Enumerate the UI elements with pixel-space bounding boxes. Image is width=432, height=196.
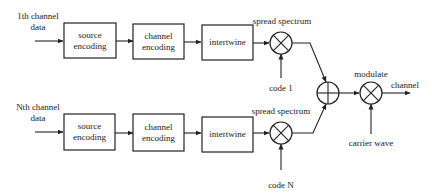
branch-n-spread-spectrum-label: spread spectrum: [252, 106, 311, 116]
branch-1: 1th channel data source encoding channel…: [17, 11, 326, 93]
channel-output-label: channel: [391, 80, 419, 90]
branch-n-channel-label-line2: encoding: [142, 133, 175, 143]
branch-n-intertwine-label: intertwine: [209, 129, 246, 139]
modulate-label: modulate: [354, 69, 388, 79]
branch-1-spread-spectrum-label: spread spectrum: [253, 16, 312, 26]
branch-1-channel-label-line1: channel: [145, 31, 173, 41]
adder-icon: [317, 82, 339, 104]
branch-1-code-label: code 1: [269, 83, 293, 93]
branch-1-to-adder-line: [292, 43, 326, 82]
branch-1-source-label-line1: source: [78, 30, 102, 40]
branch-1-source-label-line2: encoding: [74, 41, 107, 51]
branch-n-input-label-line2: data: [31, 113, 46, 123]
branch-n-input-label-line1: Nth channel: [16, 102, 60, 112]
block-diagram: 1th channel data source encoding channel…: [0, 0, 432, 196]
branch-n-multiplier-icon: [270, 122, 292, 144]
branch-1-channel-label-line2: encoding: [142, 42, 175, 52]
modulator-multiplier-icon: [360, 82, 382, 104]
branch-n-source-label-line1: source: [78, 121, 102, 131]
branch-n: Nth channel data source encoding channel…: [16, 102, 326, 190]
branch-n-channel-label-line1: channel: [145, 122, 173, 132]
carrier-wave-label: carrier wave: [349, 138, 394, 148]
branch-1-input-label-line2: data: [31, 22, 46, 32]
branch-1-multiplier-icon: [270, 32, 292, 54]
branch-n-code-label: code N: [268, 180, 294, 190]
branch-n-source-label-line2: encoding: [73, 132, 106, 142]
branch-1-input-label-line1: 1th channel: [17, 11, 59, 21]
branch-1-intertwine-label: intertwine: [209, 37, 246, 47]
